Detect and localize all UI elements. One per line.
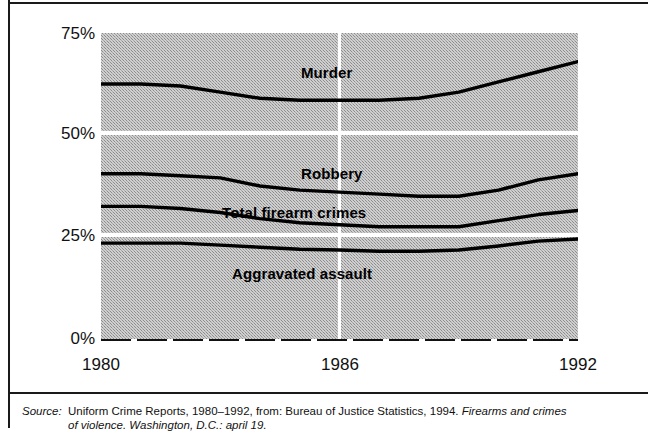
x-tick-1986-label: 1986 [300, 355, 380, 375]
caption-divider-rule [10, 392, 648, 394]
y-tick-0-label: 0% [5, 329, 95, 349]
line-chart-figure: 75% 50% 25% 0% 1980 1986 1992 Murder Rob… [0, 0, 648, 390]
caption-source-label: Source: [22, 404, 68, 418]
series-label-robbery: Robbery [301, 165, 363, 182]
y-tick-25-label: 25% [5, 226, 95, 246]
series-label-total-firearm-crimes: Total firearm crimes [222, 204, 366, 221]
series-label-murder: Murder [301, 64, 352, 81]
caption-line2-text: of violence. Washington, D.C.: april 19. [68, 418, 642, 432]
x-tick-1980-label: 1980 [61, 355, 141, 375]
y-tick-75-label: 75% [5, 24, 95, 44]
x-tick-1992-label: 1992 [538, 355, 618, 375]
y-tick-50-label: 50% [5, 124, 95, 144]
series-label-aggravated-assault: Aggravated assault [232, 265, 372, 282]
source-caption: Source:Uniform Crime Reports, 1980–1992,… [22, 404, 642, 432]
chart-canvas [0, 0, 648, 390]
caption-line1-text: Uniform Crime Reports, 1980–1992, from: … [68, 405, 459, 417]
caption-line1-title: Firearms and crimes [462, 405, 567, 417]
